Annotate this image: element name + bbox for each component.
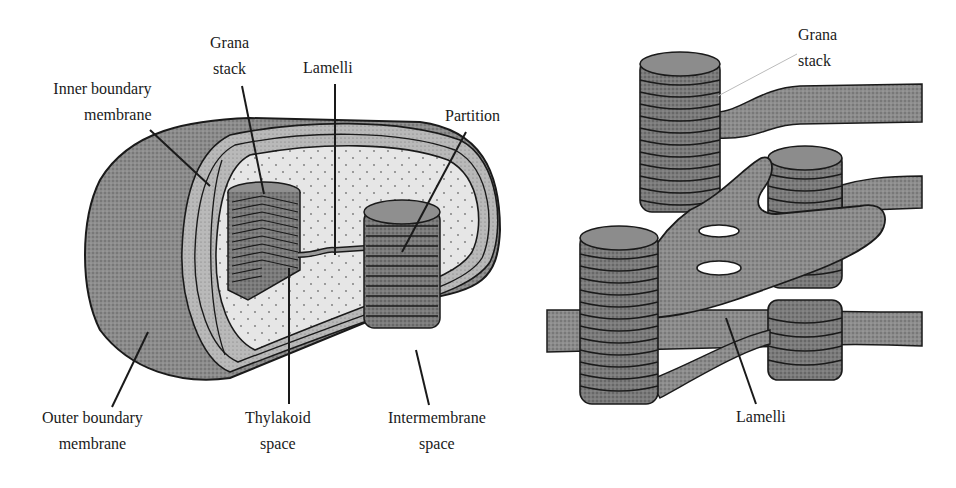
- label-line: Lamelli: [303, 55, 353, 81]
- label-grana-stack-left: Grana stack: [210, 30, 249, 82]
- label-lamelli-right: Lamelli: [736, 404, 786, 430]
- label-line: membrane: [42, 431, 143, 457]
- grana-lamellae-detail: [547, 52, 922, 404]
- label-line: stack: [210, 56, 249, 82]
- label-line: membrane: [44, 102, 152, 128]
- label-grana-stack-right: Grana stack: [798, 22, 837, 74]
- label-line: stack: [798, 48, 837, 74]
- label-line: Inner boundary: [44, 76, 152, 102]
- label-outer-boundary-membrane: Outer boundary membrane: [42, 405, 143, 457]
- label-inner-boundary-membrane: Inner boundary membrane: [44, 76, 152, 128]
- label-line: space: [245, 431, 311, 457]
- label-line: Grana: [210, 30, 249, 56]
- grana-stack-intact: [364, 200, 440, 328]
- label-line: Lamelli: [736, 404, 786, 430]
- label-line: Grana: [798, 22, 837, 48]
- label-line: space: [388, 431, 486, 457]
- label-intermembrane-space: Intermembrane space: [388, 405, 486, 457]
- label-line: Partition: [445, 103, 500, 129]
- label-line: Thylakoid: [245, 405, 311, 431]
- label-partition: Partition: [445, 103, 500, 129]
- label-line: Outer boundary: [42, 405, 143, 431]
- label-thylakoid-space: Thylakoid space: [245, 405, 311, 457]
- label-lamelli-left: Lamelli: [303, 55, 353, 81]
- label-line: Intermembrane: [388, 405, 486, 431]
